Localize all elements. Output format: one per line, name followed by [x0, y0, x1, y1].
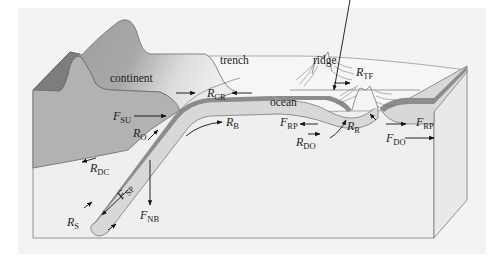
plate-tectonics-diagram: continent trench ridge ocean RCR FSU RO …: [0, 0, 500, 262]
diagram-stage: continent trench ridge ocean RCR FSU RO …: [0, 0, 500, 262]
label-trench: trench: [220, 54, 249, 66]
label-ocean: ocean: [270, 96, 297, 108]
label-ridge: ridge: [313, 54, 337, 67]
label-continent: continent: [110, 72, 154, 84]
